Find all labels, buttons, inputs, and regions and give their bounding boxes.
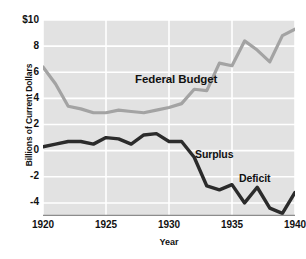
annotation-deficit: Deficit: [239, 172, 270, 184]
y-tick-label: 8: [5, 41, 39, 51]
y-tick-label: 6: [5, 67, 39, 77]
y-tick-label: 2: [5, 119, 39, 129]
annotation-surplus: Surplus: [195, 148, 233, 160]
x-tick-label: 1920: [21, 220, 65, 230]
x-tick-label: 1935: [210, 220, 254, 230]
y-tick-label: 4: [5, 93, 39, 103]
x-tick-label: 1925: [84, 220, 128, 230]
y-tick-label: 0: [5, 145, 39, 155]
y-tick-label: -4: [5, 197, 39, 207]
x-axis-title: Year: [43, 237, 295, 247]
annotation-federal-budget: Federal Budget: [135, 73, 217, 85]
x-tick-label: 1930: [147, 220, 191, 230]
plot-area: Federal Budget Surplus Deficit: [43, 20, 295, 216]
chart-figure: Billions of Current Dollars $1086420-2-4…: [0, 0, 306, 259]
x-axis-tick-labels: 19201925193019351940: [0, 220, 306, 236]
x-tick-label: 1940: [273, 220, 306, 230]
chart-svg: [43, 20, 295, 216]
y-tick-label: -2: [5, 171, 39, 181]
y-tick-label: $10: [5, 15, 39, 25]
